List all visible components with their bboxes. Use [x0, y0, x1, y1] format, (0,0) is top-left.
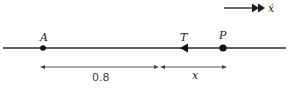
point-a-label: A — [39, 31, 48, 44]
arrowhead-left-icon — [180, 44, 188, 53]
arrowhead-right-icon — [154, 65, 159, 69]
arrowhead-right-icon — [258, 4, 265, 13]
line-diagram: ẋ A T P 0.8 x — [0, 0, 297, 91]
arrowhead-left-icon — [40, 65, 45, 69]
dimension-t-p: x — [160, 65, 227, 82]
point-t: T — [180, 31, 189, 53]
point-p-label: P — [218, 29, 227, 42]
arrowhead-right-icon — [252, 4, 259, 13]
dimension-a-t-label: 0.8 — [92, 71, 110, 84]
direction-indicator: ẋ — [224, 2, 275, 15]
dimension-t-p-label: x — [192, 69, 199, 82]
dimension-a-t: 0.8 — [40, 65, 159, 84]
direction-label: ẋ — [268, 2, 275, 15]
point-t-label: T — [180, 31, 189, 44]
arrowhead-left-icon — [160, 65, 165, 69]
arrowhead-right-icon — [222, 65, 227, 69]
dot-icon — [219, 44, 226, 51]
dot-icon — [40, 45, 46, 51]
